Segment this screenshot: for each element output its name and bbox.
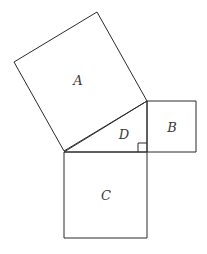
label-d: D [119,128,129,141]
label-a: A [73,74,82,87]
label-b: B [167,121,177,134]
label-c: C [101,189,111,202]
diagram: A B C D [0,0,207,254]
triangle-d [64,101,147,152]
right-angle-marker [138,143,147,152]
